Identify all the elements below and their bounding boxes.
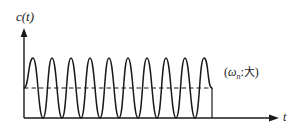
x-axis-arrowhead — [269, 114, 279, 121]
figure-container: c(t) t (ωn:大) — [0, 0, 295, 135]
annotation-close-paren: ) — [255, 65, 259, 79]
y-axis-arrowhead — [21, 28, 28, 37]
natural-frequency-annotation: (ωn:大) — [224, 66, 259, 81]
y-axis — [21, 28, 28, 118]
x-axis-label: t — [283, 111, 286, 123]
y-axis-label: c(t) — [16, 10, 34, 23]
annotation-value: 大 — [244, 66, 255, 79]
